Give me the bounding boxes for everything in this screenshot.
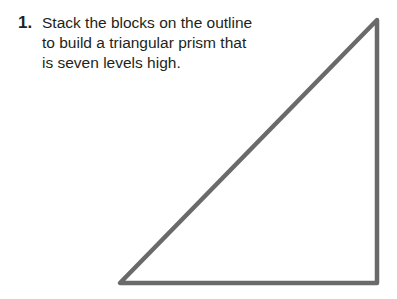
- triangle-outline: [0, 0, 397, 299]
